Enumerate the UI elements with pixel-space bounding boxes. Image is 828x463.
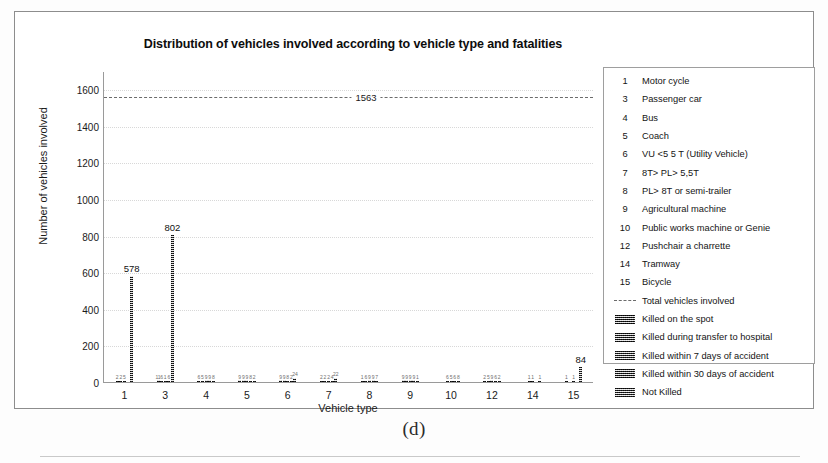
bar-value-label: 5 bbox=[487, 374, 490, 380]
legend-item-label: Public works machine or Genie bbox=[640, 223, 770, 233]
legend-key-number: 4 bbox=[610, 113, 640, 123]
bar-value-label: 9 bbox=[246, 374, 249, 380]
bar: 6 bbox=[364, 381, 367, 382]
legend-item-label: Pushchair a charrette bbox=[640, 241, 730, 251]
chart-title: Distribution of vehicles involved accord… bbox=[93, 37, 613, 51]
legend-item-label: VU <5 5 T (Utility Vehicle) bbox=[640, 149, 748, 159]
bar: 6 bbox=[446, 381, 449, 382]
legend-item-vehicle-type[interactable]: 14Tramway bbox=[610, 255, 808, 273]
bar-value-label: 24 bbox=[292, 371, 298, 377]
legend-item-vehicle-type[interactable]: 3Passenger car bbox=[610, 90, 808, 108]
legend-item-fatality[interactable]: Killed during transfer to hospital bbox=[610, 328, 808, 346]
bar: 9 bbox=[412, 380, 415, 382]
bar: 8 bbox=[286, 381, 289, 382]
legend-key-number: 3 bbox=[610, 94, 640, 104]
chart-legend: 1Motor cycle3Passenger car4Bus5Coach6VU … bbox=[603, 67, 815, 364]
bar: 2 bbox=[323, 381, 326, 382]
legend-swatch-icon bbox=[610, 351, 640, 360]
bar-value-label: 7 bbox=[375, 374, 378, 380]
bar-value-label: 2 bbox=[483, 374, 486, 380]
bar-value-label: 9 bbox=[279, 374, 282, 380]
bar-value-label: 5 bbox=[201, 374, 204, 380]
x-axis-tick-label: 5 bbox=[244, 389, 250, 401]
bar: 2 bbox=[498, 381, 501, 382]
legend-item-label: Coach bbox=[640, 131, 669, 141]
bar: 6 bbox=[453, 381, 456, 382]
x-axis-tick-label: 14 bbox=[527, 389, 539, 401]
y-axis-tick-label: 800 bbox=[59, 231, 99, 242]
bar: 5 bbox=[123, 381, 126, 382]
legend-key-number: 7 bbox=[610, 168, 640, 178]
legend-item-label: Agricultural machine bbox=[640, 204, 726, 214]
bar: 9 bbox=[372, 380, 375, 382]
x-axis-tick-label: 3 bbox=[162, 389, 168, 401]
gridline bbox=[104, 237, 593, 238]
bar-value-label: 2 bbox=[116, 374, 119, 380]
y-axis-ticks: 02004006008001000120014001600 bbox=[55, 72, 99, 383]
bar: 6 bbox=[167, 381, 170, 382]
legend-item-fatality[interactable]: Not Killed bbox=[610, 383, 808, 401]
legend-item-vehicle-type[interactable]: 12Pushchair a charrette bbox=[610, 237, 808, 255]
bar-value-label: 9 bbox=[405, 374, 408, 380]
bar-value-label: 9 bbox=[242, 374, 245, 380]
bar: 2 bbox=[320, 381, 323, 382]
y-axis-tick-label: 1200 bbox=[59, 158, 99, 169]
legend-item-label: Bicycle bbox=[640, 277, 671, 287]
legend-key-number: 6 bbox=[610, 149, 640, 159]
bar-value-label: 84 bbox=[575, 354, 586, 365]
figure-frame: Distribution of vehicles involved accord… bbox=[14, 11, 814, 409]
legend-item-label: Killed on the spot bbox=[640, 314, 713, 324]
legend-item-vehicle-type[interactable]: 1Motor cycle bbox=[610, 72, 808, 90]
bar: 5 bbox=[201, 381, 204, 382]
legend-key-number: 5 bbox=[610, 131, 640, 141]
bar: 9 bbox=[402, 380, 405, 382]
bar: 5 bbox=[450, 381, 453, 382]
legend-item-fatality[interactable]: Killed within 7 days of accident bbox=[610, 346, 808, 364]
bar: 6 bbox=[197, 381, 200, 382]
bar-value-label: 2 bbox=[324, 374, 327, 380]
bar: 578 bbox=[130, 276, 133, 382]
page-rule-divider bbox=[40, 456, 800, 457]
y-axis-tick-label: 600 bbox=[59, 268, 99, 279]
gridline bbox=[104, 127, 593, 128]
legend-swatch-icon bbox=[610, 315, 640, 324]
x-axis-tick-label: 9 bbox=[407, 389, 413, 401]
legend-item-vehicle-type[interactable]: 9Agricultural machine bbox=[610, 200, 808, 218]
y-axis-tick-label: 1600 bbox=[59, 85, 99, 96]
legend-item-vehicle-type[interactable]: 8PL> 8T or semi-trailer bbox=[610, 182, 808, 200]
legend-item-vehicle-type[interactable]: 4Bus bbox=[610, 109, 808, 127]
legend-item-fatality[interactable]: Killed on the spot bbox=[610, 310, 808, 328]
x-axis-tick-label: 10 bbox=[445, 389, 457, 401]
bar: 7 bbox=[375, 381, 378, 382]
bar: 9 bbox=[238, 380, 241, 382]
bar-value-label: 1 bbox=[572, 374, 575, 380]
legend-key-number: 10 bbox=[610, 223, 640, 233]
bar-value-label: 8 bbox=[212, 374, 215, 380]
legend-swatch-icon bbox=[610, 388, 640, 397]
legend-item-vehicle-type[interactable]: 5Coach bbox=[610, 127, 808, 145]
y-axis-tick-label: 0 bbox=[59, 378, 99, 389]
legend-item-fatality[interactable]: Killed within 30 days of accident bbox=[610, 365, 808, 383]
legend-item-label: Killed within 30 days of accident bbox=[640, 369, 774, 379]
legend-item-vehicle-type[interactable]: 78T> PL> 5,5T bbox=[610, 163, 808, 181]
y-axis-tick-label: 400 bbox=[59, 304, 99, 315]
y-axis-tick-label: 200 bbox=[59, 341, 99, 352]
bar-value-label: 22 bbox=[333, 371, 339, 377]
bar: 2 bbox=[290, 381, 293, 382]
y-axis-tick-label: 1000 bbox=[59, 195, 99, 206]
bar-value-label: 2 bbox=[498, 374, 501, 380]
legend-item-total-vehicles[interactable]: Total vehicles involved bbox=[610, 292, 808, 310]
bar: 5 bbox=[487, 381, 490, 382]
bar-value-label: 9 bbox=[205, 374, 208, 380]
legend-item-vehicle-type[interactable]: 6VU <5 5 T (Utility Vehicle) bbox=[610, 145, 808, 163]
bar-value-label: 1 bbox=[565, 374, 568, 380]
legend-key-number: 14 bbox=[610, 259, 640, 269]
x-axis-tick-label: 1 bbox=[121, 389, 127, 401]
bar-value-label: 9 bbox=[402, 374, 405, 380]
legend-swatch-icon bbox=[610, 369, 640, 378]
legend-key-number: 9 bbox=[610, 204, 640, 214]
bar-value-label: 8 bbox=[286, 374, 289, 380]
legend-item-vehicle-type[interactable]: 10Public works machine or Genie bbox=[610, 218, 808, 236]
legend-item-vehicle-type[interactable]: 15Bicycle bbox=[610, 273, 808, 291]
bar: 9 bbox=[279, 380, 282, 382]
